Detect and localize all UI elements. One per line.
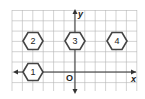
hexagon-4-label: 4 — [114, 37, 119, 46]
coordinate-grid — [0, 0, 145, 99]
x-axis-label: x — [131, 75, 136, 84]
hexagon-1-label: 1 — [30, 68, 35, 77]
origin-label: O — [66, 74, 73, 83]
y-axis-label: y — [78, 10, 83, 19]
hexagon-2-label: 2 — [30, 37, 35, 46]
hexagon-3-label: 3 — [72, 37, 77, 46]
